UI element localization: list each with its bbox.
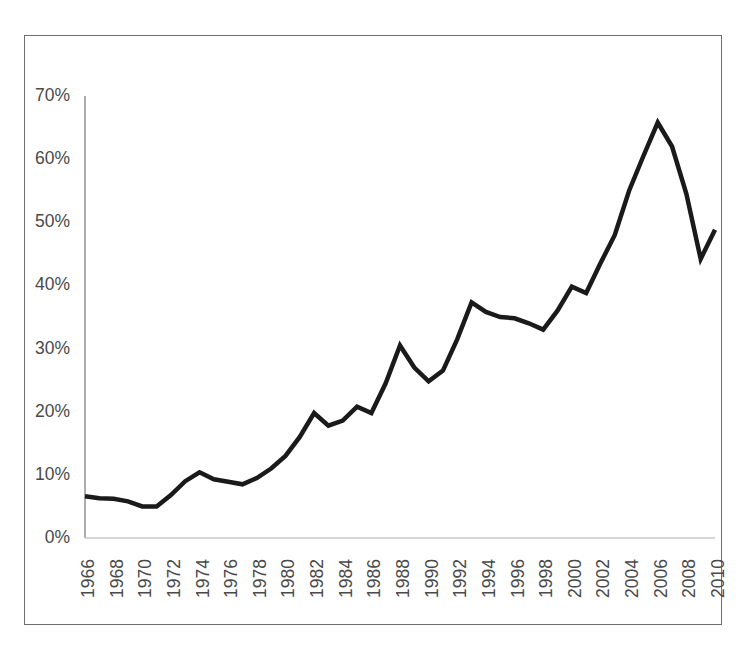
x-tick-label: 1996 [508, 559, 529, 598]
chart-border-frame [24, 35, 722, 625]
y-tick-label: 0% [12, 527, 70, 548]
x-tick-label: 2002 [593, 559, 614, 598]
x-tick-label: 1974 [193, 559, 214, 598]
x-tick-label: 1990 [422, 559, 443, 598]
x-tick-label: 1980 [278, 559, 299, 598]
y-tick-label: 10% [12, 464, 70, 485]
x-tick-label: 1988 [393, 559, 414, 598]
x-tick-label: 1992 [450, 559, 471, 598]
x-tick-label: 1978 [250, 559, 271, 598]
x-tick-label: 1994 [479, 559, 500, 598]
y-tick-label: 50% [12, 211, 70, 232]
x-tick-label: 1968 [107, 559, 128, 598]
x-tick-label: 2004 [622, 559, 643, 598]
x-tick-label: 2000 [565, 559, 586, 598]
x-tick-label: 2006 [651, 559, 672, 598]
x-tick-label: 1984 [336, 559, 357, 598]
x-tick-label: 1998 [536, 559, 557, 598]
x-tick-label: 2010 [708, 559, 729, 598]
x-tick-label: 1986 [364, 559, 385, 598]
y-tick-label: 70% [12, 85, 70, 106]
x-tick-label: 1976 [221, 559, 242, 598]
y-tick-label: 40% [12, 274, 70, 295]
x-tick-label: 1966 [78, 559, 99, 598]
y-tick-label: 20% [12, 401, 70, 422]
x-tick-label: 2008 [679, 559, 700, 598]
y-tick-label: 30% [12, 338, 70, 359]
x-tick-label: 1972 [164, 559, 185, 598]
x-tick-label: 1982 [307, 559, 328, 598]
x-tick-label: 1970 [135, 559, 156, 598]
y-tick-label: 60% [12, 148, 70, 169]
figure-container: 0%10%20%30%40%50%60%70% 1966196819701972… [0, 0, 745, 652]
